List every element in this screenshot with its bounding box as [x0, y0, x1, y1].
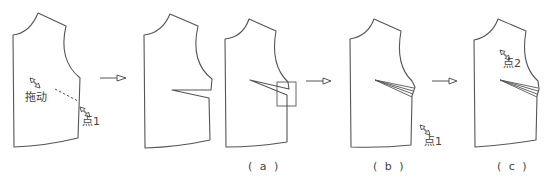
bodice-panel-a [225, 19, 296, 147]
bodice-panel-c [474, 19, 539, 147]
bodice-panel-b [350, 19, 430, 147]
caption-b: ( b ) [373, 161, 406, 172]
caption-a: ( a ) [248, 161, 280, 172]
drag-label: 拖动 [25, 92, 47, 103]
diagram-svg [0, 0, 546, 180]
drag-cursor-icon [30, 78, 40, 88]
point1-cursor-b-icon [420, 125, 430, 135]
point2-label: 点2 [503, 58, 521, 69]
bodice-original [13, 13, 90, 147]
cut-line [55, 89, 78, 101]
point1-label: 点1 [82, 116, 100, 127]
diagram-canvas: 拖动 点1 点1 点2 ( a ) ( b ) ( c ) [0, 0, 546, 180]
arrow-3 [432, 78, 457, 84]
bodice-slit-opened [144, 14, 212, 148]
arrow-2 [306, 78, 331, 84]
caption-c: ( c ) [497, 161, 529, 172]
arrow-1 [100, 75, 126, 81]
point1-label-b: 点1 [424, 136, 442, 147]
